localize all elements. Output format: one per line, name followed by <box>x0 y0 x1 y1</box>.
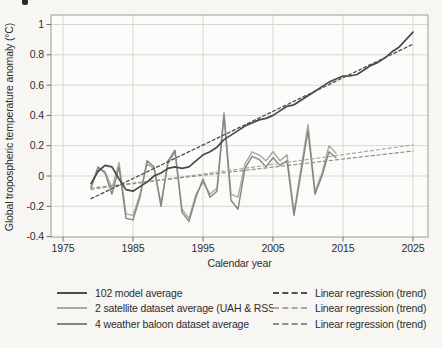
legend: 102 model average Linear regression (tre… <box>57 287 437 330</box>
x-axis-title: Calendar year <box>51 257 428 269</box>
svg-text:2005: 2005 <box>262 242 285 254</box>
svg-text:1: 1 <box>38 18 44 30</box>
figure: 19751985199520052015202510.80.60.40.20-0… <box>0 0 442 348</box>
legend-label-model-trend: Linear regression (trend) <box>315 287 437 299</box>
svg-text:1975: 1975 <box>52 242 75 254</box>
model-trend-swatch <box>273 292 307 294</box>
balloon-trend-swatch <box>273 323 307 325</box>
legend-label-satellite: 2 satellite dataset average (UAH & RSS) <box>95 302 273 314</box>
svg-text:0: 0 <box>38 170 44 182</box>
balloon-line-swatch <box>57 323 87 325</box>
satellite-line-swatch <box>57 307 87 309</box>
satellite-trend-swatch <box>273 307 307 309</box>
legend-label-balloon-trend: Linear regression (trend) <box>315 318 437 330</box>
svg-text:1995: 1995 <box>192 242 215 254</box>
svg-text:-0.4: -0.4 <box>27 230 45 242</box>
svg-text:0.6: 0.6 <box>30 79 44 91</box>
y-axis-title: Global tropospheric temperature anomaly … <box>3 7 17 247</box>
svg-text:1985: 1985 <box>122 242 145 254</box>
legend-row-satellite: 2 satellite dataset average (UAH & RSS) … <box>57 303 437 315</box>
legend-row-balloon: 4 weather baloon dataset average Linear … <box>57 318 437 330</box>
legend-label-model: 102 model average <box>95 287 273 299</box>
svg-text:2025: 2025 <box>402 242 425 254</box>
chart-plot-area: 19751985199520052015202510.80.60.40.20-0… <box>0 0 442 278</box>
svg-text:0.4: 0.4 <box>30 109 44 121</box>
model-line-swatch <box>57 292 87 294</box>
svg-text:0.8: 0.8 <box>30 48 44 60</box>
legend-label-satellite-trend: Linear regression (trend) <box>315 302 437 314</box>
legend-label-balloon: 4 weather baloon dataset average <box>95 318 273 330</box>
svg-text:-0.2: -0.2 <box>27 200 45 212</box>
legend-row-model: 102 model average Linear regression (tre… <box>57 287 437 299</box>
svg-text:0.2: 0.2 <box>30 139 44 151</box>
svg-text:2015: 2015 <box>332 242 355 254</box>
